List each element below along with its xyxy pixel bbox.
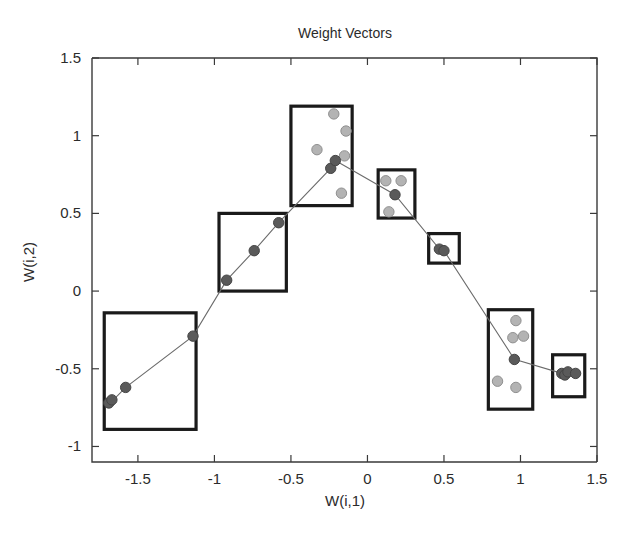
y-tick-label: 0.5 bbox=[60, 204, 81, 221]
chart-title: Weight Vectors bbox=[298, 25, 392, 41]
plot-background bbox=[0, 0, 634, 539]
weight-vector-point bbox=[390, 190, 400, 200]
data-sample-point bbox=[336, 188, 346, 198]
data-sample-point bbox=[381, 176, 391, 186]
x-tick-label: -1 bbox=[208, 470, 221, 487]
data-sample-point bbox=[341, 126, 351, 136]
weight-vector-point bbox=[330, 155, 340, 165]
weight-vector-point bbox=[107, 395, 117, 405]
data-sample-point bbox=[492, 376, 502, 386]
weight-vector-point bbox=[509, 354, 519, 364]
weight-vector-point bbox=[188, 331, 198, 341]
data-sample-point bbox=[511, 315, 521, 325]
data-sample-point bbox=[518, 331, 528, 341]
data-sample-point bbox=[384, 207, 394, 217]
x-tick-label: 1 bbox=[516, 470, 524, 487]
weight-vector-point bbox=[249, 245, 259, 255]
y-tick-label: 0 bbox=[73, 282, 81, 299]
x-tick-label: -0.5 bbox=[278, 470, 304, 487]
y-tick-label: -0.5 bbox=[55, 360, 81, 377]
weight-vector-point bbox=[439, 245, 449, 255]
data-sample-point bbox=[312, 144, 322, 154]
y-tick-label: -1 bbox=[68, 437, 81, 454]
weight-vectors-scatter-plot: Weight Vectors -1.5-1-0.500.511.5 -1-0.5… bbox=[0, 0, 634, 539]
y-tick-label: 1 bbox=[73, 127, 81, 144]
figure-container: Weight Vectors -1.5-1-0.500.511.5 -1-0.5… bbox=[0, 0, 634, 539]
x-tick-label: -1.5 bbox=[125, 470, 151, 487]
weight-vector-point bbox=[570, 368, 580, 378]
data-sample-point bbox=[511, 382, 521, 392]
y-axis-title: W(i,2) bbox=[20, 242, 37, 282]
x-tick-label: 1.5 bbox=[587, 470, 608, 487]
weight-vector-point bbox=[273, 218, 283, 228]
weight-vector-point bbox=[120, 382, 130, 392]
x-tick-label: 0 bbox=[363, 470, 371, 487]
data-sample-point bbox=[508, 332, 518, 342]
x-tick-label: 0.5 bbox=[434, 470, 455, 487]
data-sample-point bbox=[329, 109, 339, 119]
y-tick-label: 1.5 bbox=[60, 49, 81, 66]
data-sample-point bbox=[396, 176, 406, 186]
weight-vector-point bbox=[221, 275, 231, 285]
x-axis-title: W(i,1) bbox=[325, 492, 365, 509]
